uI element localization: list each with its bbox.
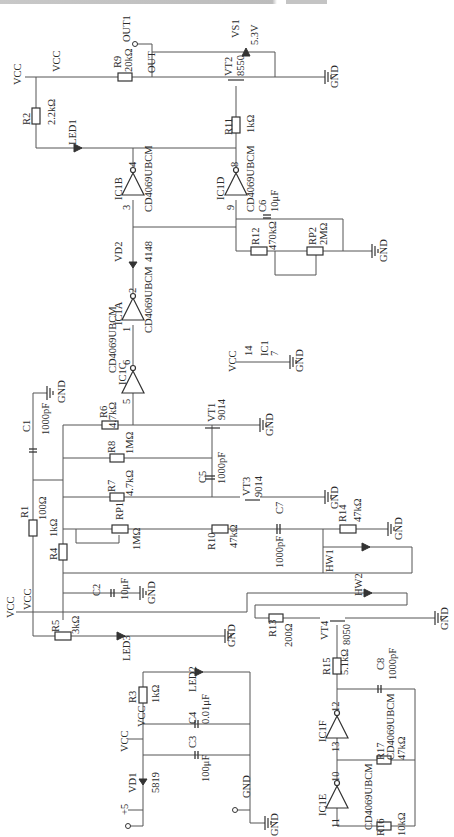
label-ic1d-pin-in: 9 (225, 205, 236, 210)
label-vcc-1: VCC (12, 63, 23, 85)
label-r7-ref: R7 (106, 480, 117, 492)
label-r12-ref: R12 (250, 227, 261, 245)
label-r16-ref: R16 (375, 818, 386, 836)
inverter-ic1a (122, 298, 144, 320)
resistor-r4 (59, 544, 67, 560)
label-c1-ref: C1 (21, 420, 32, 432)
label-r16-value: 10kΩ (396, 812, 407, 836)
label-ic1a-pin-in: 1 (121, 327, 132, 332)
label-rp1-value: 1MΩ (131, 527, 142, 550)
diode-vd2-icon (129, 262, 137, 268)
label-hw1: HW1 (324, 549, 335, 572)
label-ic1b-part: CD4069UBCM (143, 145, 154, 212)
label-ic1b-pin-out: 4 (127, 161, 138, 167)
label-gnd-vt1: GND (264, 413, 275, 436)
label-vt1-value: 9014 (216, 398, 227, 420)
label-gnd-led3: GND (226, 624, 237, 647)
label-c6-ref: C6 (257, 200, 268, 212)
inverter-ic1f (326, 716, 348, 738)
label-c7-value: 1000pF (274, 536, 285, 568)
label-rp2-ref: RP2 (307, 227, 318, 245)
label-r10-value: 47kΩ (228, 524, 239, 548)
label-r13-value: 200Ω (283, 623, 294, 647)
label-ic1-pin7: 7 (269, 351, 280, 356)
label-r14-ref: R14 (337, 504, 348, 522)
inverters (122, 168, 348, 809)
label-c4-ref: C4 (187, 711, 198, 724)
label-c6-value: 10μF (269, 190, 280, 212)
label-gnd-r14: GND (393, 517, 404, 540)
label-r17-value: 47kΩ (396, 736, 407, 760)
resistor-r3 (139, 687, 147, 703)
label-ic1a-pin-out: 2 (127, 288, 138, 293)
label-ic1d-part: CD4069UBCM (245, 145, 256, 212)
label-r1-value: 100Ω (37, 496, 48, 520)
labels: VCC VCC R9 20kΩ OUT1 OUT VS1 5.3V VT2 85… (5, 15, 450, 836)
label-vt2-ref: VT2 (223, 57, 234, 76)
label-ic1f-pin-in: 13 (330, 742, 341, 753)
resistor-r14 (340, 525, 356, 533)
label-ic1b-ref: IC1B (113, 177, 124, 200)
label-r8-value: 1MΩ (124, 431, 135, 454)
label-vcc-6: VCC (119, 730, 130, 752)
label-r15-value: 5.1kΩ (339, 649, 350, 675)
label-ic1b-pin-in: 3 (121, 205, 132, 210)
label-vs1-ref: VS1 (230, 19, 241, 38)
label-r4-ref: R4 (48, 547, 59, 560)
label-vt3-value: 9014 (253, 475, 264, 497)
label-vcc-ic1: VCC (227, 350, 238, 372)
resistor-r2p (307, 247, 323, 255)
label-ic1f-ref: IC1F (317, 720, 328, 742)
label-gnd-power-2: GND (269, 813, 280, 836)
label-ic1d-pin-out: 8 (229, 162, 240, 167)
circuit-schematic: VCC VCC R9 20kΩ OUT1 OUT VS1 5.3V VT2 85… (0, 0, 454, 837)
label-c5-ref: C5 (197, 471, 208, 483)
label-r15-ref: R15 (321, 657, 332, 675)
label-vd2-ref: VD2 (113, 242, 124, 262)
label-ic1f-pin-out: 12 (330, 702, 341, 713)
label-gnd-2: GND (378, 239, 389, 262)
label-gnd-1: GND (329, 65, 340, 88)
label-c8-ref: C8 (375, 658, 386, 670)
inverter-ic1e (326, 786, 348, 808)
resistor-r7 (110, 493, 124, 501)
label-r1-ref: R1 (19, 506, 30, 518)
resistor-r12 (251, 247, 267, 255)
label-r9-ref: R9 (112, 56, 123, 68)
label-out: OUT (146, 51, 157, 73)
label-led2: LED2 (187, 666, 198, 692)
label-ic1e-ref: IC1E (317, 794, 328, 816)
out1-port (133, 42, 138, 47)
label-r3-value: 1kΩ (150, 685, 161, 704)
label-vt4-value: 8050 (341, 624, 352, 645)
label-vcc-4: VCC (5, 596, 16, 618)
resistor-r1 (29, 520, 37, 536)
label-ic1e-pin-in: 11 (330, 818, 341, 828)
label-out1: OUT1 (121, 15, 132, 42)
label-r8-ref: R8 (106, 441, 117, 453)
label-ic1c-pin-out: 6 (121, 360, 132, 365)
label-c4-value: 0.01μF (200, 694, 211, 724)
gnd-port (233, 808, 238, 813)
label-c7-ref: C7 (274, 502, 285, 514)
label-vt3-ref: VT3 (241, 477, 252, 496)
label-hw2: HW2 (353, 573, 364, 596)
label-r4-value: 1kΩ (48, 519, 59, 538)
label-vd1-value: 5819 (150, 772, 161, 793)
wires (16, 44, 435, 826)
inverter-ic1b (122, 173, 144, 195)
label-c3-ref: C3 (187, 736, 198, 748)
label-c1-value: 1000pF (40, 403, 51, 435)
label-c8-value: 1000pF (387, 648, 398, 680)
label-r14-value: 47kΩ (352, 498, 363, 522)
label-gnd-ic1: GND (294, 349, 305, 372)
label-r11-ref: R11 (223, 118, 234, 135)
resistor-r2 (32, 108, 40, 124)
label-gnd-c1: GND (56, 380, 67, 403)
label-gnd-vt4: GND (439, 607, 450, 630)
label-r2-ref: R2 (21, 113, 32, 125)
label-ic1e-part: CD4069UBCM (363, 763, 374, 830)
label-led1: LED1 (67, 119, 78, 145)
label-r12-value: 470kΩ (267, 221, 278, 250)
label-led3: LED3 (121, 635, 132, 661)
